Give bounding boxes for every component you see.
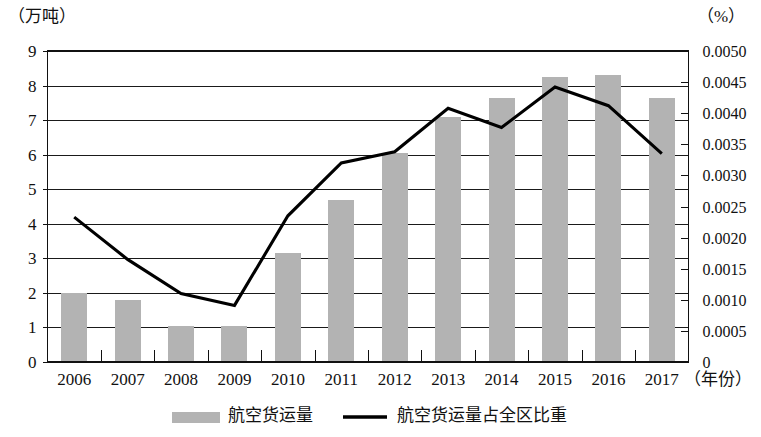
left-tick-label: 6 xyxy=(28,146,37,165)
legend-swatch-bar xyxy=(172,412,220,423)
right-tick-label: 0.0020 xyxy=(703,230,747,247)
x-label-2011: 2011 xyxy=(325,370,358,389)
right-tick-label: 0 xyxy=(703,354,711,371)
left-tick-label: 4 xyxy=(28,215,37,234)
right-tick-label: 0.0035 xyxy=(703,136,747,153)
x-label-2015: 2015 xyxy=(538,370,572,389)
x-label-2014: 2014 xyxy=(485,370,520,389)
left-tick-label: 5 xyxy=(28,180,37,199)
x-label-2012: 2012 xyxy=(378,370,412,389)
right-tick-label: 0.0050 xyxy=(703,43,747,60)
bar-2014 xyxy=(489,98,515,362)
left-tick-label: 2 xyxy=(28,284,37,303)
bar-2010 xyxy=(275,253,301,362)
left-tick-label: 7 xyxy=(28,111,37,130)
x-label-2008: 2008 xyxy=(164,370,198,389)
chart-container: （万吨） （%） 0123456789 00.00050.00100.00150… xyxy=(0,0,761,437)
x-label-2009: 2009 xyxy=(217,370,251,389)
left-tick-label: 9 xyxy=(28,42,37,61)
left-tick-label: 3 xyxy=(28,249,37,268)
x-axis-unit-label: （年份） xyxy=(684,370,752,389)
x-label-2016: 2016 xyxy=(591,370,625,389)
air-freight-combo-chart: （万吨） （%） 0123456789 00.00050.00100.00150… xyxy=(0,0,761,437)
bar-2008 xyxy=(168,326,194,362)
right-tick-label: 0.0030 xyxy=(703,167,747,184)
bar-2016 xyxy=(595,75,621,362)
x-label-2007: 2007 xyxy=(111,370,146,389)
x-label-2006: 2006 xyxy=(57,370,91,389)
right-tick-label: 0.0025 xyxy=(703,199,747,216)
bar-2007 xyxy=(115,300,141,362)
right-tick-label: 0.0015 xyxy=(703,261,747,278)
x-label-2010: 2010 xyxy=(271,370,305,389)
left-tick-label: 0 xyxy=(28,353,37,372)
legend-label-0: 航空货运量 xyxy=(228,406,313,425)
bar-2009 xyxy=(221,326,247,362)
legend-label-1: 航空货运量占全区比重 xyxy=(397,406,567,425)
x-label-2013: 2013 xyxy=(431,370,465,389)
bar-2015 xyxy=(542,77,568,362)
bar-2013 xyxy=(435,117,461,362)
bar-2012 xyxy=(382,153,408,362)
x-label-2017: 2017 xyxy=(645,370,680,389)
bar-2011 xyxy=(328,200,354,362)
bar-2017 xyxy=(649,98,675,362)
right-tick-label: 0.0045 xyxy=(703,74,747,91)
left-axis-unit-label: （万吨） xyxy=(8,7,76,26)
right-axis-unit-label: （%） xyxy=(697,7,745,26)
left-tick-label: 8 xyxy=(28,77,37,96)
left-tick-label: 1 xyxy=(28,318,37,337)
right-tick-label: 0.0040 xyxy=(703,105,747,122)
right-tick-label: 0.0010 xyxy=(703,292,747,309)
right-tick-label: 0.0005 xyxy=(703,323,747,340)
bar-2006 xyxy=(61,293,87,362)
